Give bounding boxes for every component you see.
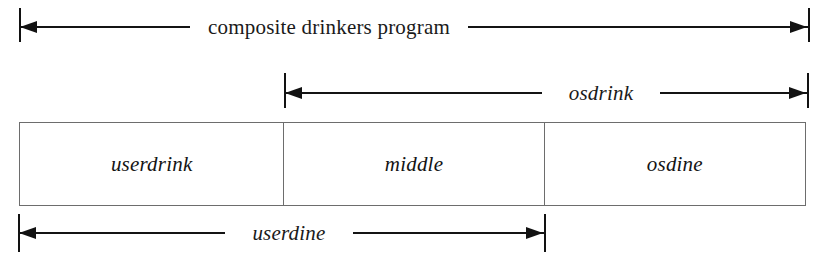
measure-label-userdine: userdine bbox=[225, 223, 353, 244]
measure-tick-right bbox=[808, 8, 810, 42]
segment-bar: userdrink middle osdine bbox=[19, 122, 806, 206]
arrow-head-left-icon bbox=[285, 87, 302, 99]
measure-label-osdrink: osdrink bbox=[542, 83, 660, 104]
arrow-head-right-icon bbox=[789, 87, 806, 99]
segment-userdrink[interactable]: userdrink bbox=[20, 123, 284, 205]
layering-diagram: composite drinkers program osdrink userd… bbox=[0, 0, 819, 266]
segment-osdine[interactable]: osdine bbox=[545, 123, 805, 205]
measure-label-composite-drinkers-program: composite drinkers program bbox=[190, 17, 468, 38]
arrow-head-left-icon bbox=[20, 21, 37, 33]
arrow-head-left-icon bbox=[19, 227, 36, 239]
segment-label-middle: middle bbox=[385, 154, 443, 175]
arrow-head-right-icon bbox=[790, 21, 807, 33]
segment-label-osdine: osdine bbox=[647, 154, 703, 175]
segment-middle[interactable]: middle bbox=[284, 123, 544, 205]
measure-tick-right bbox=[807, 73, 809, 108]
arrow-head-right-icon bbox=[526, 227, 543, 239]
segment-label-userdrink: userdrink bbox=[111, 154, 193, 175]
